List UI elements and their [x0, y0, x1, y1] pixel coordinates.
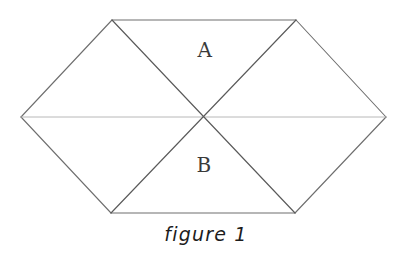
figure-caption: figure 1 [0, 224, 412, 245]
figure-container: A B figure 1 [0, 0, 412, 253]
lower-right-edge-line [295, 117, 386, 213]
upper-right-edge-line [296, 20, 386, 117]
region-label-b: B [184, 155, 224, 175]
upper-left-edge-line [21, 20, 112, 117]
region-label-a: A [185, 40, 225, 60]
lower-left-edge-line [21, 117, 111, 213]
